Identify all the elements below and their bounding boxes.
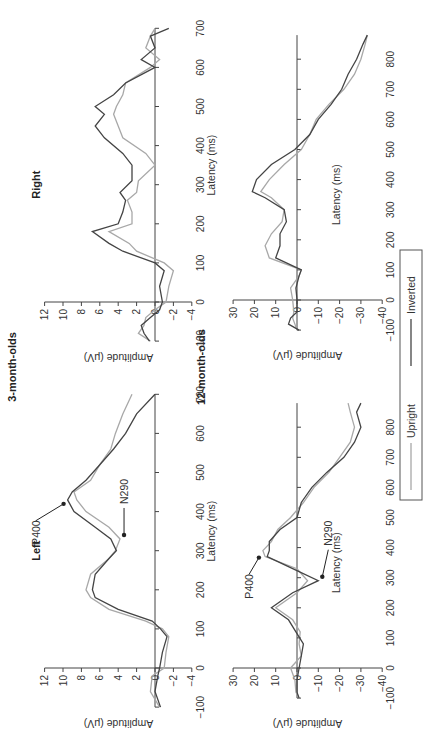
- y-axis-label: Amplitude (μV): [84, 352, 154, 364]
- annotation-p400: P400: [30, 520, 42, 545]
- panel-12mo-right: −1000100200300400500600700800−40−30−20−1…: [228, 35, 396, 362]
- y-axis-label: Amplitude (μV): [273, 718, 343, 730]
- x-tick-label: 200: [195, 581, 206, 598]
- annotation-arrow: [36, 504, 64, 521]
- x-tick-label: 600: [195, 59, 206, 76]
- y-tick-label: 2: [131, 675, 142, 681]
- y-tick-label: 4: [113, 675, 124, 681]
- y-tick-label: −10: [313, 675, 324, 692]
- annotation-n290: N290: [118, 479, 130, 504]
- x-tick-label: 200: [385, 231, 396, 248]
- panel-3mo-left: Left−1000100200300400500600700−4−2024681…: [30, 386, 217, 730]
- y-tick-label: −10: [313, 307, 324, 324]
- annotation-arrow: [249, 558, 259, 575]
- y-axis-label: Amplitude (μV): [273, 350, 343, 362]
- x-tick-label: 700: [195, 20, 206, 37]
- x-tick-label: 100: [195, 620, 206, 637]
- y-tick-label: 12: [39, 675, 50, 687]
- x-tick-label: −100: [195, 695, 206, 718]
- x-tick-label: 0: [195, 665, 206, 671]
- x-tick-label: 600: [195, 425, 206, 442]
- x-tick-label: 800: [385, 50, 396, 67]
- y-tick-label: −4: [186, 309, 197, 321]
- series-upright: [261, 35, 368, 330]
- x-tick-label: 600: [385, 479, 396, 496]
- x-tick-label: 700: [385, 449, 396, 466]
- y-tick-label: 30: [228, 675, 239, 687]
- x-tick-label: 700: [385, 81, 396, 98]
- y-tick-label: −40: [377, 675, 388, 692]
- series-inverted: [68, 394, 167, 707]
- x-tick-label: 500: [385, 509, 396, 526]
- legend: Upright Inverted: [400, 250, 422, 500]
- x-axis-label: Latency (ms): [330, 164, 342, 225]
- x-tick-label: 100: [385, 629, 396, 646]
- x-tick-label: 600: [385, 111, 396, 128]
- arrow-head-icon: [61, 502, 65, 506]
- y-tick-label: 20: [249, 675, 260, 687]
- x-tick-label: 700: [195, 386, 206, 403]
- y-tick-label: 12: [39, 309, 50, 321]
- erp-figure: 3-month-olds 12-month-olds Left−10001002…: [0, 0, 442, 733]
- x-tick-label: 500: [195, 464, 206, 481]
- x-tick-label: 800: [385, 418, 396, 435]
- x-tick-label: 0: [385, 665, 396, 671]
- y-tick-label: 10: [58, 309, 69, 321]
- x-tick-label: 200: [195, 215, 206, 232]
- x-tick-label: 0: [195, 299, 206, 305]
- y-axis-label: Amplitude (μV): [84, 718, 154, 730]
- y-tick-label: −4: [186, 675, 197, 687]
- x-tick-label: 400: [385, 171, 396, 188]
- x-tick-label: 400: [385, 539, 396, 556]
- y-tick-label: 10: [270, 675, 281, 687]
- y-tick-label: −30: [355, 307, 366, 324]
- y-tick-label: 8: [76, 309, 87, 315]
- annotation-arrow: [322, 550, 328, 577]
- arrow-head-icon: [257, 555, 261, 559]
- x-tick-label: 200: [385, 599, 396, 616]
- y-tick-label: −2: [168, 309, 179, 321]
- x-tick-label: 500: [385, 141, 396, 158]
- y-tick-label: 20: [249, 307, 260, 319]
- y-tick-label: −2: [168, 675, 179, 687]
- x-tick-label: 300: [385, 201, 396, 218]
- y-tick-label: −40: [377, 307, 388, 324]
- arrow-head-icon: [122, 533, 126, 537]
- series-inverted: [252, 35, 367, 330]
- x-tick-label: 0: [385, 297, 396, 303]
- legend-upright-label: Upright: [405, 404, 417, 438]
- x-axis-label: Latency (ms): [205, 135, 217, 196]
- annotation-n290: N290: [322, 520, 334, 545]
- panel-3mo-right: Right−1000100200300400500600700−4−202468…: [30, 20, 217, 364]
- annotation-p400: P400: [243, 574, 255, 599]
- group-title-3-month: 3-month-olds: [6, 332, 18, 402]
- y-tick-label: 6: [94, 309, 105, 315]
- y-tick-label: 6: [94, 675, 105, 681]
- y-tick-label: 10: [270, 307, 281, 319]
- y-tick-label: 10: [58, 675, 69, 687]
- x-tick-label: −100: [195, 329, 206, 352]
- legend-inverted-label: Inverted: [405, 276, 417, 314]
- y-tick-label: 30: [228, 307, 239, 319]
- y-tick-label: 8: [76, 675, 87, 681]
- y-tick-label: 4: [113, 309, 124, 315]
- arrow-head-icon: [320, 575, 324, 579]
- x-tick-label: 300: [385, 569, 396, 586]
- x-tick-label: 100: [195, 254, 206, 271]
- y-tick-label: −20: [334, 307, 345, 324]
- panel-title: Right: [30, 170, 42, 198]
- y-tick-label: 2: [131, 309, 142, 315]
- panel-12mo-left: −1000100200300400500600700800−40−30−20−1…: [228, 403, 396, 730]
- y-tick-label: −20: [334, 675, 345, 692]
- x-axis-label: Latency (ms): [205, 501, 217, 562]
- x-tick-label: 100: [385, 261, 396, 278]
- y-tick-label: −30: [355, 675, 366, 692]
- x-tick-label: 500: [195, 98, 206, 115]
